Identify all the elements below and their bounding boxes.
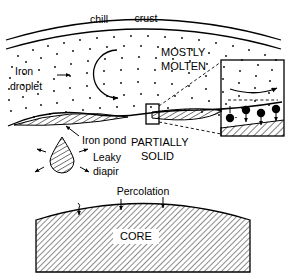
core-label: CORE — [120, 230, 152, 242]
solid-label: SOLID — [141, 150, 174, 162]
iron-droplet-label-line2: droplet — [10, 80, 42, 92]
leaky-diapir-label-line2: diapir — [93, 165, 119, 177]
iron-pond-label: Iron pond — [82, 134, 127, 146]
core-panel: Percolation CORE — [30, 180, 258, 278]
leaky-diapir-label-line1: Leaky — [93, 151, 122, 163]
iron-droplet-label-line1: Iron — [15, 65, 33, 77]
geology-diagram: chill crust MOSTLY MOLTEN Iron droplet — [0, 0, 286, 278]
leaky-diapir-shape — [46, 133, 80, 177]
magma-ocean-panel: chill crust MOSTLY MOLTEN Iron droplet — [0, 12, 286, 177]
partially-label: PARTIALLY — [131, 136, 189, 148]
chill-label: chill — [90, 13, 108, 25]
mostly-label: MOSTLY — [161, 46, 206, 58]
iron-pond-leader — [66, 126, 79, 136]
percolation-label: Percolation — [117, 185, 170, 197]
molten-label: MOLTEN — [161, 60, 206, 72]
figure-root: chill crust MOSTLY MOLTEN Iron droplet — [0, 0, 286, 278]
crust-label: crust — [135, 12, 158, 24]
inset-leader-bottom — [159, 122, 221, 134]
